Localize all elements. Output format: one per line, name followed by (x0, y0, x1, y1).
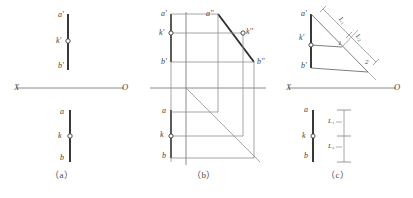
axis-label-x-c: X (286, 83, 291, 92)
point-label-k: k (302, 132, 306, 140)
panel-c: X O a' k' b' 1 2 L₁ L₂ a k b L₁ L₂ （c） (280, 0, 413, 198)
axis-label-o-a: O (122, 83, 128, 92)
point-k-top-marker (311, 134, 315, 138)
point-k-front-marker (169, 31, 173, 35)
point-label-k-prime: k' (56, 37, 61, 45)
point-label-k-double-prime: k'' (246, 28, 253, 36)
caption-c: （c） (326, 168, 349, 181)
point-label-b: b (304, 152, 308, 160)
point-k-front-marker (66, 39, 70, 43)
point-label-a: a (162, 107, 166, 115)
point-k-top-marker (169, 134, 173, 138)
point-label-b-prime: b' (301, 62, 307, 70)
axis-label-o-c: O (394, 83, 400, 92)
point-label-b: b (162, 152, 166, 160)
point-k-top-marker (68, 134, 72, 138)
caption-b: （b） (192, 168, 216, 181)
construction-number-1: 1 (338, 40, 342, 47)
point-label-b-prime: b' (161, 58, 167, 66)
dimension-label-l1-top: L₁ (328, 118, 334, 125)
construction-number-2: 2 (365, 59, 369, 66)
axis-label-x-a: X (14, 83, 19, 92)
point-k-side-marker (241, 31, 245, 35)
closing-line-b-to-2 (311, 68, 368, 72)
point-label-k-prime: k' (299, 34, 304, 42)
panel-b: a' k' b' a'' k'' b'' a k b （b） (138, 0, 280, 198)
point-label-b: b (60, 154, 64, 162)
miter-line-45deg (186, 88, 260, 162)
point-label-a-double-prime: a'' (206, 10, 213, 18)
point-k-front-marker (309, 43, 313, 47)
point-label-k: k (160, 131, 164, 139)
point-label-a-prime: a' (161, 10, 167, 18)
point-label-k-prime: k' (159, 29, 164, 37)
point-label-a-prime: a' (58, 11, 64, 19)
point-label-a: a (304, 106, 308, 114)
line-ab-side-projection (218, 14, 254, 62)
panel-a: X O a' k' b' a k b （a） (0, 0, 138, 198)
dimension-line-aux (323, 9, 376, 62)
point-label-a-prime: a' (301, 10, 307, 18)
point-label-b-prime: b' (58, 62, 64, 70)
point-label-k: k (58, 132, 62, 140)
ray-tail-beyond-2 (368, 72, 376, 80)
dimension-label-l2-top: L₂ (328, 143, 334, 150)
point-label-b-double-prime: b'' (257, 58, 264, 66)
caption-a: （a） (50, 168, 73, 181)
point-label-a: a (60, 108, 64, 116)
